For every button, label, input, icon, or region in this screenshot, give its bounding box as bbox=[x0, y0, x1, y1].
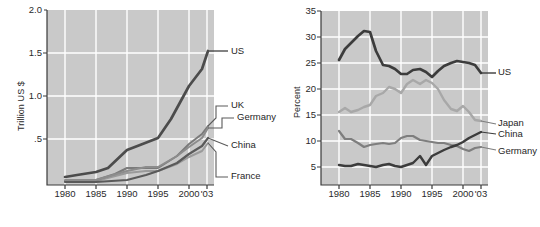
right-plot-svg bbox=[270, 0, 540, 227]
right-series-label-us: US bbox=[498, 66, 511, 77]
chart-panel-left: Trillion US $ 2.0 1.5 1.0 .5 1980 1985 1… bbox=[0, 0, 270, 227]
right-series-label-japan: Japan bbox=[498, 117, 524, 128]
left-series-label-us: US bbox=[231, 45, 244, 56]
left-series-label-china: China bbox=[231, 139, 256, 150]
figure-two-panel-line-charts: Trillion US $ 2.0 1.5 1.0 .5 1980 1985 1… bbox=[0, 0, 540, 227]
right-series-label-china: China bbox=[498, 128, 523, 139]
chart-panel-right: Percent 35 30 25 20 15 10 5 1980 1985 19… bbox=[270, 0, 540, 227]
right-series-label-germany: Germany bbox=[498, 145, 537, 156]
left-series-label-uk: UK bbox=[231, 99, 244, 110]
left-series-label-france: France bbox=[231, 170, 261, 181]
left-plot-svg bbox=[0, 0, 270, 227]
